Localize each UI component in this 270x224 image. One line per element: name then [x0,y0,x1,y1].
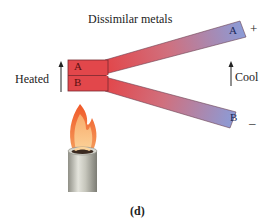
thermocouple-diagram: Dissimilar metals A B Heated A + B – Coo… [0,0,270,224]
metal-strip-b [105,77,236,128]
strip-b-end-label: B [230,111,237,123]
positive-terminal: + [250,21,257,37]
figure-caption: (d) [130,204,145,219]
strip-a-end-label: A [229,24,237,36]
bunsen-burner-icon [68,147,97,192]
metal-strip-a [105,21,246,74]
cool-arrow-icon [229,61,234,86]
cool-label: Cool [235,70,258,85]
heated-arrow-icon [59,61,64,92]
diagram-title: Dissimilar metals [88,12,172,27]
junction-label-a: A [74,60,82,72]
flame-icon [70,104,96,150]
junction-label-b: B [74,76,81,88]
negative-terminal: – [249,115,256,131]
heated-label: Heated [15,72,49,87]
